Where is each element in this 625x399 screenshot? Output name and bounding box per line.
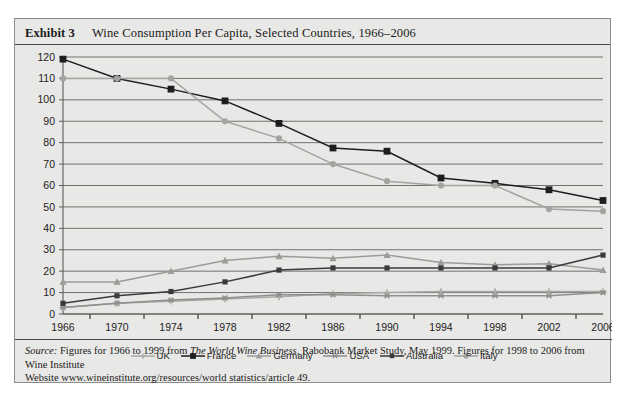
data-point	[600, 253, 605, 258]
data-point	[168, 298, 175, 305]
data-point	[222, 98, 229, 105]
data-point	[114, 75, 120, 81]
data-point	[168, 86, 175, 93]
x-tick-label: 1982	[267, 321, 291, 333]
exhibit-title-bar: Exhibit 3 Wine Consumption Per Capita, S…	[15, 19, 610, 45]
line-chart: 0102030405060708090100110120 19661970197…	[15, 45, 612, 350]
data-point	[384, 265, 389, 270]
series-uk	[60, 288, 607, 311]
exhibit-card: Exhibit 3 Wine Consumption Per Capita, S…	[14, 18, 611, 383]
y-tick-label: 110	[38, 72, 55, 84]
data-point	[60, 301, 65, 306]
y-tick-label: 60	[43, 179, 55, 191]
data-point	[222, 279, 227, 284]
y-axis-ticks	[59, 57, 63, 314]
data-point	[222, 296, 229, 303]
x-tick-label: 1974	[159, 321, 183, 333]
data-point	[438, 175, 445, 182]
data-point	[492, 182, 498, 188]
exhibit-title: Wine Consumption Per Capita, Selected Co…	[92, 26, 416, 40]
data-point	[276, 135, 282, 141]
source-line-1: Source: Figures for 1966 to 1999 from Th…	[25, 344, 596, 371]
data-point	[600, 288, 607, 295]
y-tick-label: 0	[49, 308, 55, 320]
y-tick-label: 80	[43, 136, 55, 148]
x-tick-label: 2002	[537, 321, 561, 333]
y-tick-label: 30	[43, 243, 55, 255]
gridlines	[63, 57, 603, 314]
data-point	[600, 197, 607, 204]
y-tick-label: 120	[37, 51, 55, 63]
series-layer	[59, 56, 606, 311]
data-point	[438, 265, 443, 270]
y-tick-label: 70	[43, 158, 55, 170]
data-point	[276, 267, 281, 272]
y-tick-label: 100	[37, 93, 55, 105]
data-point	[546, 206, 552, 212]
data-point	[168, 289, 173, 294]
source-note: Source: Figures for 1966 to 1999 from Th…	[15, 339, 612, 383]
data-point	[60, 56, 67, 63]
data-point	[384, 148, 391, 155]
chart-plot-area: 0102030405060708090100110120 19661970197…	[15, 45, 612, 350]
y-tick-label: 10	[43, 286, 55, 298]
x-tick-label: 1970	[105, 321, 129, 333]
x-tick-label: 2006	[591, 321, 612, 333]
data-point	[222, 118, 228, 124]
x-tick-label: 1994	[429, 321, 453, 333]
data-point	[546, 265, 551, 270]
data-point	[168, 75, 174, 81]
data-point	[330, 265, 335, 270]
x-axis-labels: 1966197019741978198219861990199419982002…	[51, 321, 612, 333]
y-axis-labels: 0102030405060708090100110120	[37, 51, 55, 320]
x-tick-label: 1986	[321, 321, 345, 333]
data-point	[276, 120, 283, 127]
data-point	[600, 208, 606, 214]
data-point	[546, 186, 553, 193]
y-tick-label: 50	[43, 201, 55, 213]
source-prefix: Source:	[25, 345, 57, 356]
exhibit-label: Exhibit 3	[25, 26, 75, 40]
y-tick-label: 20	[43, 265, 55, 277]
data-point	[330, 145, 337, 152]
data-point	[330, 290, 337, 297]
y-tick-label: 90	[43, 115, 55, 127]
source-work-title: The World Wine Business	[190, 345, 297, 356]
data-point	[114, 293, 119, 298]
source-text-1: Figures for 1966 to 1999 from	[57, 345, 190, 356]
x-tick-label: 1978	[213, 321, 237, 333]
series-line	[63, 59, 603, 200]
x-tick-label: 1990	[375, 321, 399, 333]
x-axis-ticks	[90, 314, 576, 319]
y-tick-label: 40	[43, 222, 55, 234]
data-point	[384, 178, 390, 184]
data-point	[492, 265, 497, 270]
source-line-2: Website www.wineinstitute.org/resources/…	[25, 371, 596, 385]
data-point	[438, 182, 444, 188]
x-tick-label: 1966	[51, 321, 75, 333]
data-point	[60, 75, 66, 81]
data-point	[330, 161, 336, 167]
x-tick-label: 1998	[483, 321, 507, 333]
